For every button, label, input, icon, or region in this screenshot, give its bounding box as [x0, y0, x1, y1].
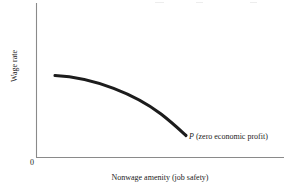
- origin-label: 0: [30, 159, 34, 167]
- curve-endpoint-label: P (zero economic profit): [189, 133, 268, 141]
- y-axis-title: Wage rate: [11, 59, 19, 73]
- figure-container: Wage rate Nonwage amenity (job safety) 0…: [0, 0, 296, 194]
- x-axis-title: Nonwage amenity (job safety): [36, 174, 284, 182]
- curve-point-description: (zero economic profit): [194, 132, 268, 141]
- plot-area: [0, 0, 296, 194]
- zero-profit-curve: [55, 76, 186, 136]
- y-axis-title-text: Wage rate: [11, 36, 19, 96]
